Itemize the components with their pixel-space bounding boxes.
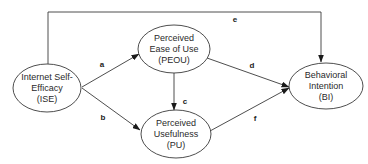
- node-peou-line-3: (PEOU): [158, 55, 190, 65]
- edge-c-label: c: [183, 97, 188, 106]
- node-pu: Perceived Usefulness (PU): [141, 110, 211, 158]
- node-bi-line-2: Intention: [309, 81, 344, 91]
- node-bi: Behavioral Intention (BI): [289, 63, 363, 109]
- edge-a-line: [82, 54, 139, 87]
- node-peou: Perceived Ease of Use (PEOU): [138, 25, 210, 73]
- node-ise-line-2: Efficacy: [31, 83, 63, 93]
- edge-d-label: d: [250, 61, 255, 70]
- edge-f-label: f: [254, 114, 257, 123]
- node-ise: Internet Self- Efficacy (ISE): [13, 64, 81, 112]
- node-ise-line-3: (ISE): [37, 94, 58, 104]
- edge-a-label: a: [100, 60, 105, 69]
- edge-f-line: [210, 88, 289, 131]
- edge-b-label: b: [101, 113, 106, 122]
- edge-e-label: e: [233, 15, 238, 24]
- edge-a: a: [82, 54, 139, 87]
- path-model-diagram: e a b c d f Internet Self- Efficacy (ISE…: [0, 0, 368, 164]
- edge-d: d: [207, 58, 289, 87]
- node-pu-line-1: Perceived: [156, 118, 196, 128]
- edge-f: f: [210, 88, 289, 131]
- node-peou-line-1: Perceived: [154, 33, 194, 43]
- node-pu-line-2: Usefulness: [154, 129, 199, 139]
- node-bi-line-3: (BI): [319, 92, 334, 102]
- edge-d-line: [207, 58, 289, 87]
- node-ise-line-1: Internet Self-: [21, 72, 73, 82]
- edge-b: b: [82, 88, 140, 130]
- edge-c: c: [174, 73, 188, 110]
- node-bi-line-1: Behavioral: [305, 70, 348, 80]
- edge-b-line: [82, 88, 140, 130]
- node-pu-line-3: (PU): [167, 140, 186, 150]
- node-peou-line-2: Ease of Use: [149, 44, 198, 54]
